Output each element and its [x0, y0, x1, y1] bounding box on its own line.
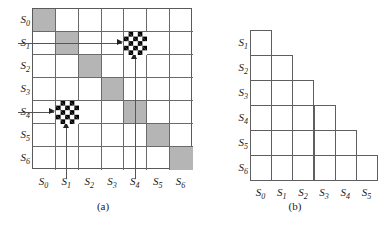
- col-label-a-s6: S6: [169, 176, 193, 191]
- matrix-cell: [79, 101, 102, 124]
- staircase-cell: [314, 130, 336, 156]
- matrix-cell-checkered: [124, 32, 147, 55]
- matrix-cell-diagonal: [124, 101, 147, 124]
- col-label-a-s2: S2: [77, 176, 101, 191]
- matrix-cell: [170, 124, 193, 147]
- staircase-cell: [271, 105, 293, 131]
- row-label-a-s4: S4: [6, 106, 30, 121]
- matrix-cell: [170, 9, 193, 32]
- staircase-cell: [314, 105, 336, 131]
- matrix-cell: [170, 32, 193, 55]
- matrix-cell: [170, 78, 193, 101]
- caption-a: (a): [0, 200, 206, 212]
- staircase-cell: [250, 80, 272, 106]
- matrix-cell: [147, 55, 170, 78]
- matrix-cell: [79, 9, 102, 32]
- matrix-cell: [33, 55, 56, 78]
- matrix-cell: [79, 124, 102, 147]
- arrow-horizontal: [18, 43, 122, 44]
- matrix-cell-diagonal: [79, 55, 102, 78]
- col-label-a-s0: S0: [31, 176, 55, 191]
- row-label-a-s3: S3: [6, 83, 30, 98]
- figure-container: S0S1S2S3S4S5S6 S0S1S2S3S4S5S6 (a) S1S2S3…: [0, 0, 384, 225]
- row-label-a-s5: S5: [6, 129, 30, 144]
- panel-a: S0S1S2S3S4S5S6 S0S1S2S3S4S5S6 (a): [0, 0, 206, 225]
- staircase-cell: [335, 155, 357, 181]
- row-label-b-s4: S4: [224, 112, 248, 127]
- matrix-cell: [79, 78, 102, 101]
- matrix-cell: [124, 9, 147, 32]
- staircase-cell: [292, 155, 314, 181]
- arrow-vertical: [66, 123, 67, 179]
- matrix-cell-diagonal: [33, 9, 56, 32]
- staircase-cell: [314, 155, 336, 181]
- staircase-cell: [292, 80, 314, 106]
- matrix-cell: [147, 9, 170, 32]
- staircase-cell: [250, 105, 272, 131]
- matrix-cell: [170, 101, 193, 124]
- matrix-cell: [56, 55, 79, 78]
- staircase-cell: [250, 30, 272, 56]
- matrix-cell: [79, 147, 102, 170]
- matrix-cell: [33, 32, 56, 55]
- matrix-cell: [170, 55, 193, 78]
- row-label-a-s2: S2: [6, 60, 30, 75]
- arrow-horizontal: [18, 112, 54, 113]
- row-label-b-s2: S2: [224, 62, 248, 77]
- matrix-cell: [33, 124, 56, 147]
- matrix-cell: [102, 147, 125, 170]
- matrix-cell: [124, 147, 147, 170]
- row-label-a-s6: S6: [6, 152, 30, 167]
- matrix-cell: [124, 124, 147, 147]
- row-label-a-s1: S1: [6, 37, 30, 52]
- matrix-cell-checkered: [56, 101, 79, 124]
- matrix-cell: [147, 78, 170, 101]
- matrix-cell: [33, 147, 56, 170]
- staircase-cell: [250, 55, 272, 81]
- staircase-cell: [335, 130, 357, 156]
- row-label-b-s1: S1: [224, 37, 248, 52]
- row-label-a-s0: S0: [6, 14, 30, 29]
- matrix-cell: [56, 78, 79, 101]
- matrix-cell: [147, 32, 170, 55]
- matrix-cell: [102, 124, 125, 147]
- staircase-cell: [271, 80, 293, 106]
- row-label-b-s3: S3: [224, 87, 248, 102]
- matrix-cell-diagonal: [56, 32, 79, 55]
- staircase-cell: [356, 155, 378, 181]
- matrix-cell: [124, 78, 147, 101]
- matrix-cell: [102, 55, 125, 78]
- panel-b: S1S2S3S4S5S6 S0S1S2S3S4S5 (b): [206, 0, 384, 225]
- staircase-cell: [250, 130, 272, 156]
- matrix-cell: [147, 147, 170, 170]
- matrix-cell: [56, 9, 79, 32]
- matrix-grid-a: [32, 8, 192, 169]
- matrix-cell: [102, 101, 125, 124]
- arrow-vertical: [135, 54, 136, 179]
- col-label-a-s5: S5: [146, 176, 170, 191]
- matrix-cell: [33, 78, 56, 101]
- matrix-cell: [102, 9, 125, 32]
- col-label-a-s3: S3: [100, 176, 124, 191]
- matrix-cell-diagonal: [102, 78, 125, 101]
- staircase-cell: [271, 130, 293, 156]
- matrix-cell: [79, 32, 102, 55]
- matrix-cell-diagonal: [147, 124, 170, 147]
- matrix-cell: [147, 101, 170, 124]
- staircase-cell: [271, 155, 293, 181]
- row-label-b-s5: S5: [224, 137, 248, 152]
- row-label-b-s6: S6: [224, 162, 248, 177]
- caption-b: (b): [206, 200, 384, 212]
- staircase-cell: [271, 55, 293, 81]
- matrix-cell-diagonal: [170, 147, 193, 170]
- staircase-cell: [250, 155, 272, 181]
- staircase-cell: [292, 130, 314, 156]
- staircase-grid-b: [250, 30, 374, 180]
- staircase-cell: [292, 105, 314, 131]
